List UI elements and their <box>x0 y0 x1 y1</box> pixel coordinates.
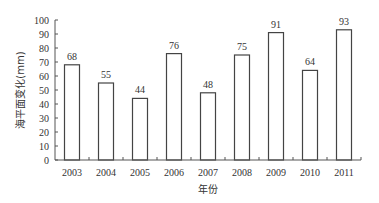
y-tick-label: 50 <box>39 85 49 96</box>
x-axis-title: 年份 <box>198 183 218 195</box>
x-tick-label: 2004 <box>96 167 116 178</box>
data-label: 68 <box>67 51 77 62</box>
y-tick-label: 80 <box>39 43 49 54</box>
bar-2005 <box>133 98 148 160</box>
bar-2010 <box>303 70 318 160</box>
bar-2004 <box>99 83 114 160</box>
data-label: 91 <box>271 19 281 30</box>
data-label: 55 <box>101 69 111 80</box>
bar-chart: 0102030405060708090100 68554476487591649… <box>0 0 379 203</box>
y-tick-label: 60 <box>39 71 49 82</box>
data-label: 93 <box>339 16 349 27</box>
y-tick-label: 90 <box>39 29 49 40</box>
x-tick-label: 2005 <box>130 167 150 178</box>
y-tick-label: 70 <box>39 57 49 68</box>
x-tick-label: 2008 <box>232 167 252 178</box>
y-tick-label: 20 <box>39 127 49 138</box>
x-tick-label: 2011 <box>334 167 354 178</box>
y-axis-ticks: 0102030405060708090100 <box>34 15 58 166</box>
bar-2009 <box>269 33 284 160</box>
y-tick-label: 30 <box>39 113 49 124</box>
y-tick-label: 100 <box>34 15 49 26</box>
bar-2006 <box>167 54 182 160</box>
y-tick-label: 40 <box>39 99 49 110</box>
data-label: 64 <box>305 56 315 67</box>
x-tick-label: 2003 <box>62 167 82 178</box>
data-label: 48 <box>203 79 213 90</box>
data-label: 44 <box>135 84 145 95</box>
bar-2011 <box>337 30 352 160</box>
y-tick-label: 10 <box>39 141 49 152</box>
x-tick-label: 2010 <box>300 167 320 178</box>
x-tick-label: 2009 <box>266 167 286 178</box>
data-label: 76 <box>169 40 179 51</box>
x-tick-label: 2007 <box>198 167 218 178</box>
y-tick-label: 0 <box>44 155 49 166</box>
bar-2007 <box>201 93 216 160</box>
bar-2008 <box>235 55 250 160</box>
y-axis-title: 海平面变化(mm) <box>14 51 26 128</box>
x-tick-label: 2006 <box>164 167 184 178</box>
bar-2003 <box>65 65 80 160</box>
data-label: 75 <box>237 41 247 52</box>
bars: 685544764875916493 <box>65 16 352 160</box>
